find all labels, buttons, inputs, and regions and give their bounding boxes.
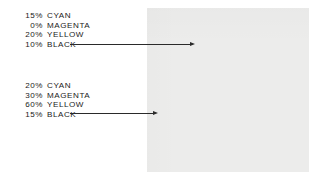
ink-percent-black: 10% (17, 40, 47, 50)
arrowhead-icon-inner (190, 42, 195, 46)
ink-name-magenta: MAGENTA (47, 21, 90, 31)
leader-line-outer (70, 113, 154, 114)
ink-name-yellow: YELLOW (47, 100, 84, 110)
ink-percent-cyan: 20% (17, 81, 47, 91)
ink-row-cyan: 20% CYAN (17, 81, 90, 91)
ink-row-magenta: 0% MAGENTA (17, 21, 90, 31)
ink-percent-yellow: 20% (17, 30, 47, 40)
arrowhead-icon-outer (153, 111, 158, 115)
ink-name-black: BLACK (47, 110, 76, 120)
ink-percent-magenta: 30% (17, 91, 47, 101)
outer-tint-swatch (147, 8, 309, 172)
ink-percent-magenta: 0% (17, 21, 47, 31)
ink-name-cyan: CYAN (47, 11, 71, 21)
ink-percent-cyan: 15% (17, 11, 47, 21)
ink-name-yellow: YELLOW (47, 30, 84, 40)
leader-line-inner (70, 44, 191, 45)
ink-row-yellow: 20% YELLOW (17, 30, 90, 40)
cmyk-callout-diagram: 15% CYAN 0% MAGENTA 20% YELLOW 10% BLACK… (0, 0, 316, 179)
ink-row-cyan: 15% CYAN (17, 11, 90, 21)
ink-name-cyan: CYAN (47, 81, 71, 91)
ink-name-magenta: MAGENTA (47, 91, 90, 101)
ink-percent-black: 15% (17, 110, 47, 120)
ink-row-black: 15% BLACK (17, 110, 90, 120)
ink-row-magenta: 30% MAGENTA (17, 91, 90, 101)
ink-row-yellow: 60% YELLOW (17, 100, 90, 110)
ink-percent-yellow: 60% (17, 100, 47, 110)
